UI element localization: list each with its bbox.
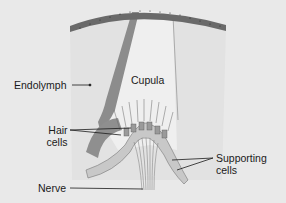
label-supporting-cells-2: cells (216, 165, 237, 176)
label-nerve: Nerve (38, 183, 66, 194)
ampulla-diagram (0, 0, 286, 203)
label-cupula: Cupula (131, 75, 164, 86)
label-supporting-cells-1: Supporting (216, 153, 267, 164)
label-endolymph: Endolymph (14, 80, 67, 91)
label-hair-cells-1: Hair (46, 125, 70, 136)
label-hair-cells-2: cells (44, 137, 70, 148)
